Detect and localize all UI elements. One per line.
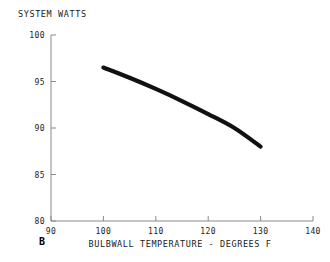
x-axis-ticks: [51, 216, 313, 221]
x-tick-label: 120: [200, 227, 216, 236]
x-tick-label: 90: [46, 227, 56, 236]
y-tick-label: 95: [35, 78, 45, 87]
y-tick-label: 85: [35, 171, 45, 180]
x-axis-title-text: BULBWALL TEMPERATURE - DEGREES F: [89, 239, 272, 249]
panel-label: B: [39, 236, 46, 247]
data-series-line: [103, 68, 260, 147]
chart-figure: SYSTEM WATTS 80859095100 901001101201301…: [0, 0, 330, 262]
y-tick-label: 80: [35, 217, 45, 226]
y-axis-ticks: [51, 35, 56, 221]
y-tick-label: 90: [35, 124, 45, 133]
x-tick-label: 130: [253, 227, 269, 236]
x-axis-tick-labels: 90100110120130140: [46, 227, 321, 236]
y-axis-tick-labels: 80859095100: [29, 31, 45, 226]
x-tick-label: 110: [148, 227, 164, 236]
x-tick-label: 100: [96, 227, 112, 236]
x-axis-title: BULBWALL TEMPERATURE - DEGREES F: [0, 239, 330, 249]
y-tick-label: 100: [29, 31, 45, 40]
x-tick-label: 140: [305, 227, 321, 236]
chart-canvas: 80859095100 90100110120130140: [0, 0, 330, 262]
